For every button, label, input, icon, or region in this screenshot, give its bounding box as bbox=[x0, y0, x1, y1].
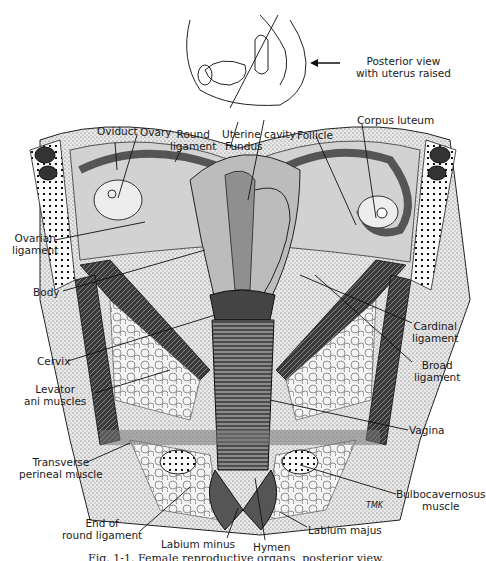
label-labium-majus: Labium majus bbox=[308, 524, 382, 536]
cervix bbox=[210, 290, 275, 320]
label-bulbocavernosus: Bulbocavernosus muscle bbox=[396, 488, 486, 512]
label-transverse-perineal: Transverse perineal muscle bbox=[19, 456, 103, 480]
artist-signature: TMK bbox=[366, 500, 383, 512]
label-round-ligament: Round ligament bbox=[170, 128, 216, 152]
label-oviduct: Oviduct bbox=[97, 125, 138, 137]
vagina bbox=[212, 320, 274, 470]
label-end-of-round-ligament: End of round ligament bbox=[62, 517, 142, 541]
left-vessel bbox=[35, 147, 55, 163]
label-labium-minus: Labium minus bbox=[161, 538, 235, 550]
label-vagina: Vagina bbox=[409, 424, 444, 436]
label-fundus: Fundus bbox=[225, 140, 263, 152]
right-bulbocavernosus bbox=[282, 450, 318, 474]
inset-sketch bbox=[187, 15, 306, 108]
label-cardinal-ligament: Cardinal ligament bbox=[412, 320, 458, 344]
label-uterine-cavity: Uterine cavity bbox=[222, 128, 296, 140]
label-levator-ani: Levator ani muscles bbox=[24, 383, 86, 407]
label-cervix: Cervix bbox=[37, 355, 70, 367]
label-corpus-luteum: Corpus luteum bbox=[357, 114, 434, 126]
inset-note: Posterior view with uterus raised bbox=[356, 55, 451, 79]
right-vessel bbox=[430, 147, 450, 163]
left-bulbocavernosus bbox=[160, 450, 196, 474]
label-body: Body bbox=[33, 286, 60, 298]
label-hymen: Hymen bbox=[253, 541, 290, 553]
label-ovarian-ligament: Ovarian ligament bbox=[12, 232, 58, 256]
label-follicle: Follicle bbox=[297, 129, 333, 141]
label-ovary: Ovary bbox=[140, 126, 171, 138]
figure-caption: Fig. 1-1. Female reproductive organs, po… bbox=[88, 553, 408, 561]
anatomy-figure: Posterior view with uterus raised Oviduc… bbox=[0, 0, 486, 561]
left-ovary bbox=[94, 180, 142, 220]
label-broad-ligament: Broad ligament bbox=[414, 359, 460, 383]
